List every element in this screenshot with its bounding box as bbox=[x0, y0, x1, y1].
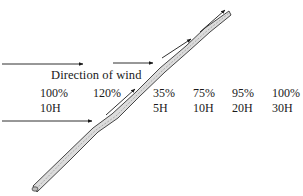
windbreak-end-cap bbox=[32, 187, 38, 191]
height-col-4: 10H bbox=[193, 102, 214, 115]
height-col-3: 5H bbox=[153, 102, 168, 115]
wind-direction-title: Direction of wind bbox=[51, 69, 142, 82]
percent-col-2: 120% bbox=[93, 87, 121, 100]
height-col-5: 20H bbox=[232, 102, 253, 115]
height-col-1: 10H bbox=[40, 102, 61, 115]
wind-arrows bbox=[2, 10, 225, 121]
height-col-6: 30H bbox=[272, 102, 293, 115]
percent-col-6: 100% bbox=[272, 87, 300, 100]
percent-col-4: 75% bbox=[193, 87, 215, 100]
percent-col-5: 95% bbox=[232, 87, 254, 100]
percent-col-3: 35% bbox=[153, 87, 175, 100]
percent-col-1: 100% bbox=[40, 87, 68, 100]
